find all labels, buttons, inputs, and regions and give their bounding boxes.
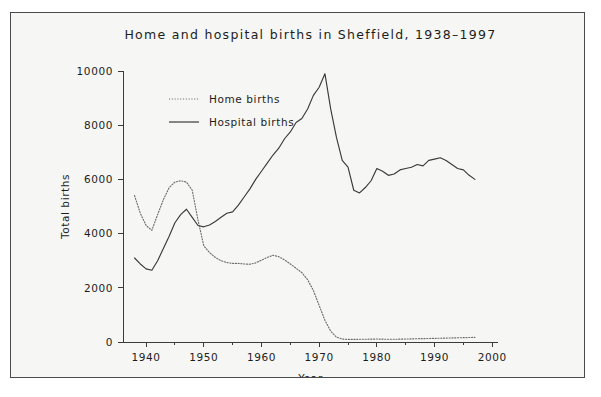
axis-spines	[123, 71, 498, 342]
x-tick-label: 1950	[189, 351, 218, 363]
y-tick-label: 0	[106, 336, 113, 348]
axis-titles-group: Year Total births	[59, 174, 323, 377]
x-axis-title: Year	[297, 372, 323, 377]
chart-title-group: Home and hospital births in Sheffield, 1…	[124, 27, 496, 42]
x-tick-label: 1970	[305, 351, 334, 363]
x-tick-label: 1990	[420, 351, 449, 363]
chart-title: Home and hospital births in Sheffield, 1…	[124, 27, 496, 42]
y-tick-label: 10000	[77, 65, 113, 77]
legend-label-hospital-births: Hospital births	[209, 116, 294, 128]
figure-frame: Home and hospital births in Sheffield, 1…	[10, 12, 585, 378]
y-tick-label: 4000	[84, 227, 113, 239]
y-tick-label: 6000	[84, 173, 113, 185]
x-tick-label: 2000	[478, 351, 507, 363]
series-line-home-births	[135, 181, 475, 340]
figure-root: Home and hospital births in Sheffield, 1…	[0, 0, 601, 397]
series-line-hospital-births	[135, 74, 475, 270]
legend-group: Home birthsHospital births	[169, 93, 294, 128]
x-tick-label: 1940	[132, 351, 161, 363]
y-tick-label: 2000	[84, 282, 113, 294]
x-tick-label: 1980	[362, 351, 391, 363]
series-group	[135, 74, 475, 340]
legend-label-home-births: Home births	[209, 93, 280, 105]
y-axis-title: Total births	[59, 174, 71, 240]
y-tick-label: 8000	[84, 119, 113, 131]
x-tick-label: 1960	[247, 351, 276, 363]
births-line-chart: Home and hospital births in Sheffield, 1…	[11, 13, 584, 377]
